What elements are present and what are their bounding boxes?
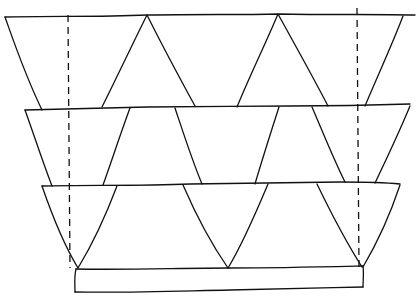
base-top-line <box>76 266 363 269</box>
row-3-line-1 <box>42 186 78 268</box>
row-3-line-4 <box>228 184 268 268</box>
base-bottom-line <box>75 287 363 292</box>
row-2-line-4 <box>255 107 279 184</box>
row-3-line-5 <box>317 184 362 267</box>
row-1-top-line <box>5 14 415 17</box>
base-rectangle <box>75 266 364 292</box>
row-2-line-5 <box>312 107 345 182</box>
row-1-right-edge <box>365 16 403 106</box>
row-2-bottom-line <box>42 182 400 186</box>
sketch-diagram <box>0 0 418 300</box>
dashed-guide-left <box>68 15 70 268</box>
row-2-line-6 <box>375 106 410 183</box>
row-3 <box>42 184 400 268</box>
row-1-triangle-2 <box>237 14 328 107</box>
row-2-line-3 <box>175 108 202 184</box>
row-2-line-2 <box>103 108 130 185</box>
row-3-line-6 <box>363 185 400 267</box>
dashed-guide-right <box>357 8 359 268</box>
row-1-left-edge <box>5 17 42 110</box>
base-left-edge <box>75 269 76 292</box>
row-3-line-3 <box>183 185 228 268</box>
row-2-line-1 <box>25 110 52 186</box>
row-1-bottom-line <box>25 104 410 110</box>
row-1 <box>5 14 415 110</box>
row-3-line-2 <box>78 186 117 268</box>
row-2 <box>25 106 410 186</box>
row-1-triangle-1 <box>102 15 195 107</box>
